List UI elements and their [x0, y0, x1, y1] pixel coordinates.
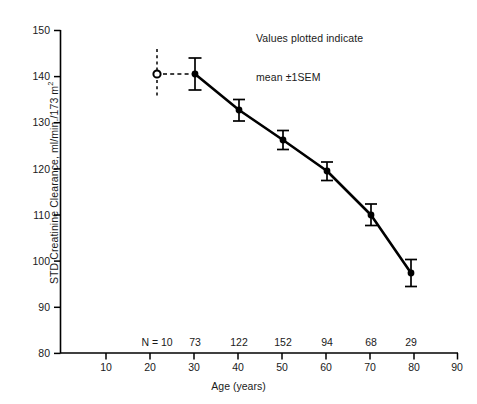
data-point: [368, 212, 375, 219]
plot-area: 150 140 130 120 110 100 90 80 10 20 30 4…: [0, 0, 477, 404]
reference-open-circle-marker: [153, 70, 160, 77]
x-tick-label: 50: [276, 361, 288, 373]
data-line: [195, 74, 411, 273]
n-label: 68: [365, 336, 377, 348]
reference-dashed-lines: [157, 49, 192, 98]
x-tick-label: 90: [451, 361, 463, 373]
n-label: 94: [321, 336, 333, 348]
error-bars: [189, 58, 418, 287]
y-tick-label: 120: [32, 163, 50, 175]
y-tick-label: 100: [32, 255, 50, 267]
x-axis-tick-labels: 10 20 30 40 50 60 70 80 90: [100, 361, 463, 373]
x-tick-label: 40: [232, 361, 244, 373]
x-tick-label: 60: [320, 361, 332, 373]
n-label: 29: [405, 336, 417, 348]
y-tick-label: 80: [38, 347, 50, 359]
y-tick-label: 130: [32, 116, 50, 128]
y-tick-label: 110: [33, 209, 50, 221]
data-point: [236, 107, 243, 114]
y-axis-ticks: [54, 31, 61, 354]
y-tick-label: 90: [38, 301, 50, 313]
n-label: N = 10: [141, 336, 172, 348]
x-tick-label: 20: [144, 361, 156, 373]
y-tick-label: 150: [32, 24, 50, 36]
data-point-markers: [192, 71, 415, 277]
x-tick-label: 70: [364, 361, 376, 373]
n-label: 152: [274, 336, 292, 348]
data-point: [324, 168, 331, 175]
data-point: [280, 137, 287, 144]
y-tick-label: 140: [32, 70, 50, 82]
n-label: 122: [230, 336, 248, 348]
sample-size-labels: N = 10 73 122 152 94 68 29: [141, 336, 417, 348]
x-tick-label: 80: [408, 361, 420, 373]
data-point: [408, 270, 415, 277]
data-point: [192, 71, 199, 78]
chart-figure: Values plotted indicate mean ±1SEM STD C…: [0, 0, 477, 404]
y-axis-tick-labels: 150 140 130 120 110 100 90 80: [32, 24, 50, 359]
n-label: 73: [189, 336, 201, 348]
x-axis-ticks: [106, 353, 458, 360]
x-tick-label: 10: [100, 361, 112, 373]
x-tick-label: 30: [188, 361, 200, 373]
